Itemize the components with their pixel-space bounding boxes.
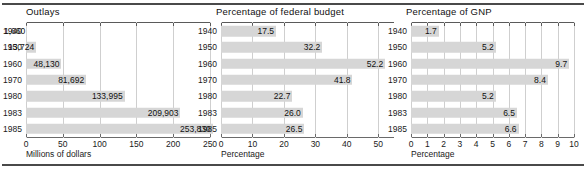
bar-row: 1980133,995: [26, 88, 210, 104]
bar-row: 196048,130: [26, 56, 210, 72]
bar-value-label: 1,660: [4, 26, 25, 36]
bar-value-label: 26.5: [286, 124, 303, 134]
category-label: 1960: [388, 59, 407, 69]
bar-rows: 19401,660195013,724196048,130197081,6921…: [26, 23, 210, 137]
bar-value-label: 209,903: [148, 108, 179, 118]
axis-tick-label: 9: [555, 139, 560, 149]
bar-row: 195032.2: [221, 39, 394, 55]
bar-value-label: 41.8: [334, 75, 351, 85]
category-label: 1980: [3, 91, 22, 101]
category-label: 1983: [198, 108, 217, 118]
category-label: 1960: [3, 59, 22, 69]
category-label: 1980: [198, 91, 217, 101]
axis-tick-label: 0: [24, 139, 29, 149]
figure-sheet: Outlays 19401,660195013,724196048,130197…: [0, 0, 586, 169]
category-label: 1940: [388, 26, 407, 36]
bar-value-label: 6.5: [503, 108, 515, 118]
bar-row: 198526.5: [221, 121, 394, 137]
x-axis-caption: Percentage: [221, 149, 264, 159]
bar-rows: 194017.5195032.2196052.2197041.8198022.7…: [221, 23, 394, 137]
bar-row: 19401.7: [411, 23, 574, 39]
category-label: 1985: [3, 124, 22, 134]
gridline: [574, 22, 575, 138]
axis-tick-label: 7: [523, 139, 528, 149]
bar-value-label: 32.2: [304, 42, 321, 52]
category-label: 1983: [3, 108, 22, 118]
plot-area: 19401.719505.219609.719708.419805.219836…: [411, 22, 574, 138]
axis-tick-label: 250: [203, 139, 217, 149]
bar-row: 1985253,830: [26, 121, 210, 137]
bar: [411, 75, 548, 86]
chart-panel-outlays: Outlays 19401,660195013,724196048,130197…: [6, 6, 206, 162]
category-label: 1970: [3, 75, 22, 85]
bar-rows: 19401.719505.219609.719708.419805.219836…: [411, 23, 574, 137]
bar-value-label: 13,724: [8, 42, 34, 52]
category-label: 1950: [388, 42, 407, 52]
bar: [411, 58, 569, 69]
bar-value-label: 81,692: [58, 75, 84, 85]
category-label: 1980: [388, 91, 407, 101]
bar-value-label: 9.7: [555, 59, 567, 69]
bar-row: 19856.6: [411, 121, 574, 137]
axis-tick-label: 40: [342, 139, 351, 149]
axis-tick-label: 3: [458, 139, 463, 149]
category-label: 1970: [388, 75, 407, 85]
bar-row: 19401,660: [26, 23, 210, 39]
axis-bottom-rule: [26, 137, 210, 138]
category-label: 1960: [198, 59, 217, 69]
category-label: 1970: [198, 75, 217, 85]
bar-value-label: 8.4: [534, 75, 546, 85]
bar-row: 194017.5: [221, 23, 394, 39]
plot-area: 194017.5195032.2196052.2197041.8198022.7…: [221, 22, 394, 138]
bar-row: 196052.2: [221, 56, 394, 72]
axis-tick-label: 2: [441, 139, 446, 149]
bar-value-label: 22.7: [274, 91, 291, 101]
axis-tick-label: 4: [474, 139, 479, 149]
axis-tick-label: 5: [490, 139, 495, 149]
bar-value-label: 52.2: [367, 59, 384, 69]
bar-row: 197041.8: [221, 72, 394, 88]
axis-tick-label: 150: [129, 139, 143, 149]
bar-value-label: 5.2: [482, 91, 494, 101]
axis-tick-mark: [210, 134, 211, 137]
category-label: 1983: [388, 108, 407, 118]
bar-row: 19708.4: [411, 72, 574, 88]
bar-row: 19805.2: [411, 88, 574, 104]
axis-tick-label: 30: [311, 139, 320, 149]
x-axis-caption: Millions of dollars: [26, 149, 210, 159]
bar-value-label: 6.6: [505, 124, 517, 134]
chart-panel-federal-budget: Percentage of federal budget 194017.5195…: [216, 6, 402, 162]
axis-tick-label: 6: [506, 139, 511, 149]
bar-row: 19609.7: [411, 56, 574, 72]
axis-bottom-rule: [221, 137, 394, 138]
axis-tick-label: 50: [58, 139, 67, 149]
bar-value-label: 48,130: [33, 59, 59, 69]
bar-value-label: 5.2: [482, 42, 494, 52]
axis-tick-label: 20: [279, 139, 288, 149]
axis-tick-label: 0: [219, 139, 224, 149]
bar-row: 19505.2: [411, 39, 574, 55]
category-label: 1985: [388, 124, 407, 134]
chart-panel-gnp: Percentage of GNP 19401.719505.219609.71…: [406, 6, 582, 162]
bar-row: 197081,692: [26, 72, 210, 88]
panel-title: Percentage of federal budget: [216, 6, 344, 17]
axis-tick-label: 10: [248, 139, 257, 149]
bar-value-label: 26.0: [284, 108, 301, 118]
panel-title: Outlays: [26, 6, 60, 17]
bar-row: 198326.0: [221, 104, 394, 120]
bar: [411, 107, 517, 118]
category-label: 1940: [198, 26, 217, 36]
axis-tick-label: 0: [409, 139, 414, 149]
axis-tick-label: 50: [374, 139, 383, 149]
bar-row: 1983209,903: [26, 104, 210, 120]
top-rule: [2, 3, 584, 5]
axis-tick-label: 1: [425, 139, 430, 149]
bar-row: 19836.5: [411, 104, 574, 120]
category-label: 1950: [198, 42, 217, 52]
bar-row: 195013,724: [26, 39, 210, 55]
bar-value-label: 1.7: [425, 26, 437, 36]
plot-area: 19401,660195013,724196048,130197081,6921…: [26, 22, 210, 138]
axis-tick-label: 100: [93, 139, 107, 149]
panel-title: Percentage of GNP: [406, 6, 492, 17]
bar: [26, 26, 27, 37]
